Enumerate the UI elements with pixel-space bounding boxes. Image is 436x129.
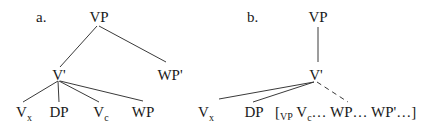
edge-vbar-vx-b <box>219 82 314 99</box>
tree-a-leaf-dp: DP <box>49 104 68 120</box>
tree-a-root-vp: VP <box>89 9 108 25</box>
edge-vbar-dp-a <box>58 81 59 102</box>
edge-vp-vbar-a <box>60 26 97 67</box>
edge-vbar-wp-a <box>60 81 143 101</box>
edge-vbar-dp-b <box>253 82 314 102</box>
edge-vp-wpprime-a <box>99 26 166 62</box>
tree-b-vbar: V' <box>309 67 323 83</box>
tree-a-leaf-wp: WP <box>132 104 155 120</box>
tree-a-leaf-vc: Vc <box>93 104 108 122</box>
tree-b-leaf-dp: DP <box>244 104 263 120</box>
tree-a-label: a. <box>36 9 46 25</box>
edge-vbar-vx-a <box>23 81 58 102</box>
tree-b-bracketed-vp: [VP Vc… WP… WP'…] <box>275 104 416 122</box>
edge-vbar-bracket-b <box>317 82 348 102</box>
edge-vbar-vc-a <box>59 81 99 102</box>
tree-a-vbar: V' <box>52 67 66 83</box>
tree-b-label: b. <box>247 9 258 25</box>
tree-a-leaf-vx: Vx <box>16 104 32 122</box>
tree-b-leaf-vx: Vx <box>198 104 214 122</box>
tree-b-root-vp: VP <box>308 9 327 25</box>
tree-a-wpprime: WP' <box>157 67 182 83</box>
